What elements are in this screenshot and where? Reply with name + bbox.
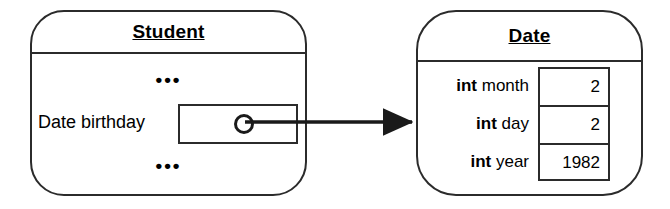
date-field-year-value: 1982 — [538, 143, 610, 181]
ellipsis-above-field: ••• — [32, 70, 305, 89]
student-object-box: Student ••• Date birthday ••• — [30, 10, 307, 196]
reference-pointer-circle-icon — [234, 114, 254, 134]
date-field-year-label: int year — [418, 152, 538, 172]
object-reference-diagram: Student ••• Date birthday ••• Date — [0, 0, 670, 209]
type-keyword-int: int — [456, 76, 477, 95]
field-name-day: day — [497, 114, 529, 133]
date-object-box: Date int month 2 int day 2 int year 1982 — [416, 10, 643, 196]
student-field-birthday-label: Date birthday — [38, 112, 178, 133]
type-keyword-int: int — [476, 114, 497, 133]
date-field-day-label: int day — [418, 114, 538, 134]
date-field-month-value: 2 — [538, 67, 610, 105]
date-title-bar: Date — [418, 12, 641, 62]
date-field-month-label: int month — [418, 76, 538, 96]
field-name-month: month — [477, 76, 529, 95]
date-field-day-value: 2 — [538, 105, 610, 143]
student-field-birthday-value-cell — [178, 104, 298, 144]
student-object-title: Student — [132, 21, 204, 43]
ellipsis-below-field: ••• — [32, 156, 305, 175]
student-field-birthday-row: Date birthday — [32, 103, 305, 145]
date-fields-table: int month 2 int day 2 int year 1982 — [418, 60, 641, 194]
date-field-day-row: int day 2 — [418, 105, 641, 143]
date-field-year-row: int year 1982 — [418, 143, 641, 181]
student-fields-area: ••• Date birthday ••• — [32, 52, 305, 194]
date-object-title: Date — [509, 25, 551, 47]
field-name-year: year — [491, 152, 529, 171]
student-title-bar: Student — [32, 12, 305, 54]
date-field-month-row: int month 2 — [418, 67, 641, 105]
type-keyword-int: int — [470, 152, 491, 171]
